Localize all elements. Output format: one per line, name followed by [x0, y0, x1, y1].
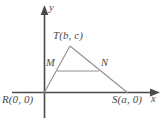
point-label-M: M	[46, 58, 55, 69]
point-label-N: N	[101, 58, 108, 69]
geometry-figure: T(b, c) M N R(0, 0) S(a, 0) x y	[0, 0, 168, 124]
vertex-label-S: S(a, 0)	[112, 94, 142, 105]
segment-RT	[44, 46, 70, 93]
segment-TS	[70, 46, 128, 93]
vertex-label-R: R(0, 0)	[2, 94, 33, 105]
triangle-rts	[44, 46, 128, 93]
coordinate-plane-svg	[0, 0, 168, 124]
x-axis-label: x	[151, 94, 156, 105]
y-axis-arrowhead	[41, 5, 49, 15]
y-axis-label: y	[49, 3, 54, 14]
vertex-label-T: T(b, c)	[53, 30, 83, 41]
